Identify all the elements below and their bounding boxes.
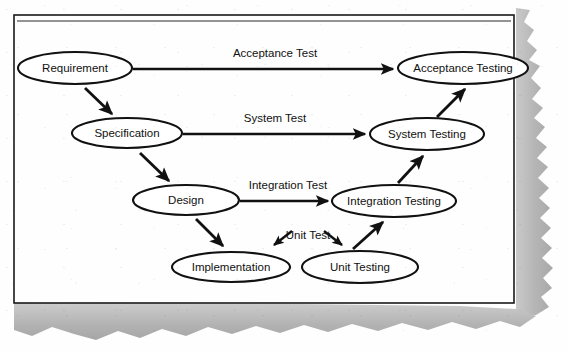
edge-label-unit-test: Unit Test (286, 229, 331, 241)
node-acceptance-testing[interactable]: Acceptance Testing (398, 52, 528, 84)
edge-label-integration-test: Integration Test (249, 179, 328, 191)
node-label-acceptance-testing: Acceptance Testing (413, 62, 513, 74)
scanned-diagram-page: Acceptance Test System Test Integration … (0, 0, 568, 352)
node-requirement[interactable]: Requirement (18, 52, 132, 84)
node-label-requirement: Requirement (42, 62, 109, 74)
node-unit-testing[interactable]: Unit Testing (302, 251, 418, 283)
node-label-unit-testing: Unit Testing (330, 261, 390, 273)
node-label-integration-testing: Integration Testing (347, 195, 441, 207)
node-design[interactable]: Design (133, 185, 239, 215)
node-specification[interactable]: Specification (72, 118, 182, 148)
node-implementation[interactable]: Implementation (172, 252, 290, 282)
node-label-design: Design (168, 194, 204, 206)
node-label-implementation: Implementation (192, 261, 271, 273)
edge-label-acceptance-test: Acceptance Test (233, 47, 318, 59)
node-label-system-testing: System Testing (388, 128, 466, 140)
node-label-specification: Specification (94, 127, 159, 139)
node-integration-testing[interactable]: Integration Testing (332, 185, 456, 217)
edge-label-system-test: System Test (244, 112, 307, 124)
node-system-testing[interactable]: System Testing (370, 118, 484, 150)
